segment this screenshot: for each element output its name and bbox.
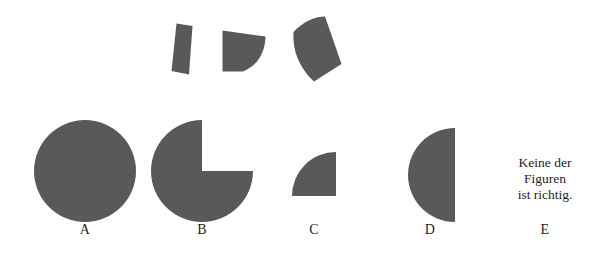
option-e-text-line-3: ist richtig. <box>485 187 605 203</box>
option-b-label: B <box>182 222 222 238</box>
option-d-shape[interactable] <box>408 128 455 222</box>
option-b-shape[interactable] <box>151 120 253 222</box>
large-curved-wedge-piece <box>293 17 341 82</box>
small-curved-wedge-piece <box>223 31 266 72</box>
option-e-text-line-1: Keine der <box>485 155 605 171</box>
option-e-label: E <box>525 222 565 238</box>
option-c-label: C <box>294 222 334 238</box>
shapes-canvas <box>0 0 610 260</box>
option-d-label: D <box>410 222 450 238</box>
option-e-text-line-2: Figuren <box>485 171 605 187</box>
option-a-shape[interactable] <box>34 120 136 222</box>
option-a-label: A <box>65 222 105 238</box>
options-shapes-group <box>34 120 455 222</box>
narrow-sliver-piece <box>172 24 193 75</box>
pieces-group <box>172 17 342 82</box>
puzzle-figure: A B C D E Keine der Figuren ist richtig. <box>0 0 610 260</box>
option-c-shape[interactable] <box>292 152 336 196</box>
option-e-text[interactable]: Keine der Figuren ist richtig. <box>485 155 605 203</box>
